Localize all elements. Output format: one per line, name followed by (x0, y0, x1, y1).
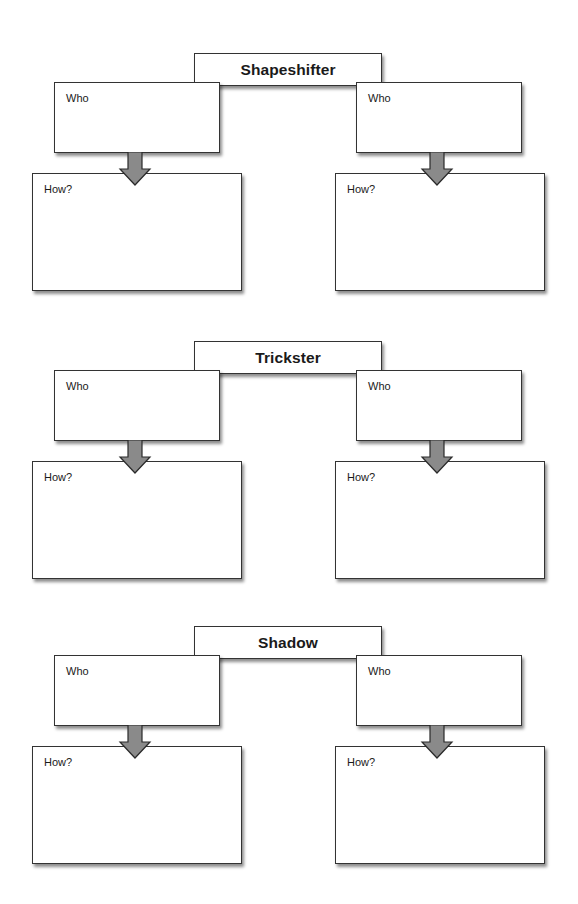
section-shapeshifter: Shapeshifter Who Who How? How? (0, 53, 578, 313)
how-box-right[interactable]: How? (335, 173, 545, 291)
down-arrow-icon (420, 152, 454, 188)
how-box-left[interactable]: How? (32, 173, 242, 291)
who-label: Who (66, 665, 89, 677)
section-title-box: Shapeshifter (194, 53, 382, 86)
down-arrow-icon (420, 440, 454, 476)
how-label: How? (347, 756, 375, 768)
who-box-left[interactable]: Who (54, 655, 220, 726)
who-label: Who (66, 380, 89, 392)
who-box-right[interactable]: Who (356, 655, 522, 726)
section-title: Trickster (255, 349, 321, 367)
who-label: Who (66, 92, 89, 104)
how-label: How? (44, 471, 72, 483)
how-label: How? (44, 183, 72, 195)
how-box-right[interactable]: How? (335, 461, 545, 579)
who-label: Who (368, 665, 391, 677)
section-shadow: Shadow Who Who How? How? (0, 626, 578, 886)
who-label: Who (368, 92, 391, 104)
how-label: How? (44, 756, 72, 768)
section-trickster: Trickster Who Who How? How? (0, 341, 578, 601)
how-box-left[interactable]: How? (32, 746, 242, 864)
down-arrow-icon (420, 725, 454, 761)
down-arrow-icon (118, 152, 152, 188)
down-arrow-icon (118, 725, 152, 761)
section-title-box: Trickster (194, 341, 382, 374)
who-label: Who (368, 380, 391, 392)
who-box-right[interactable]: Who (356, 370, 522, 441)
how-label: How? (347, 471, 375, 483)
section-title-box: Shadow (194, 626, 382, 659)
section-title: Shadow (258, 634, 318, 652)
who-box-left[interactable]: Who (54, 370, 220, 441)
who-box-right[interactable]: Who (356, 82, 522, 153)
who-box-left[interactable]: Who (54, 82, 220, 153)
down-arrow-icon (118, 440, 152, 476)
how-box-left[interactable]: How? (32, 461, 242, 579)
section-title: Shapeshifter (240, 61, 335, 79)
how-box-right[interactable]: How? (335, 746, 545, 864)
how-label: How? (347, 183, 375, 195)
